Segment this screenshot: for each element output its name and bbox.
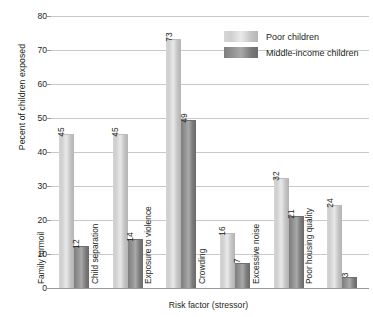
- x-tick-label: Crowding: [197, 249, 207, 284]
- y-tick-mark-40: [47, 152, 51, 153]
- y-tick-mark-80: [47, 16, 51, 17]
- bar-value-label: 12: [71, 240, 81, 249]
- x-tick-label: Excessive noise: [251, 224, 261, 284]
- bar-slot: 45: [113, 16, 128, 288]
- bar[interactable]: 73: [166, 39, 181, 288]
- bar-slot: 14: [128, 16, 143, 288]
- legend-label-middle-income-children: Middle-income children: [266, 48, 359, 58]
- bar[interactable]: 3: [342, 277, 357, 288]
- bar-value-label: 45: [110, 127, 120, 136]
- bar-value-label: 7: [232, 259, 242, 264]
- y-tick-label-50: 50: [7, 113, 47, 123]
- bar-slot: 12: [74, 16, 89, 288]
- y-tick-mark-30: [47, 186, 51, 187]
- x-tick-label: Family turmoil: [36, 232, 46, 284]
- y-tick-mark-0: [47, 288, 51, 289]
- legend-label-poor-children: Poor children: [266, 32, 319, 42]
- x-axis-title: Risk factor (stressor): [44, 300, 373, 310]
- bar[interactable]: 49: [181, 120, 196, 288]
- bar[interactable]: 12: [74, 246, 89, 288]
- bar-group: 7349Exposure to violence: [154, 16, 208, 288]
- legend: Poor children Middle-income children: [224, 31, 359, 63]
- legend-swatch-poor-children: [224, 31, 258, 42]
- bar-slot: 49: [181, 16, 196, 288]
- y-tick-mark-70: [47, 50, 51, 51]
- bar[interactable]: 45: [59, 134, 74, 288]
- y-tick-mark-20: [47, 220, 51, 221]
- x-tick-label: Exposure to violence: [143, 206, 153, 284]
- bar-value-label: 49: [179, 114, 189, 123]
- bar-value-label: 45: [56, 127, 66, 136]
- bar[interactable]: 21: [289, 216, 304, 288]
- bar-value-label: 3: [340, 272, 350, 277]
- y-tick-label-40: 40: [7, 147, 47, 157]
- y-tick-mark-50: [47, 118, 51, 119]
- legend-item-poor-children: Poor children: [224, 31, 359, 42]
- bar-value-label: 24: [325, 199, 335, 208]
- bar-value-label: 16: [217, 226, 227, 235]
- y-tick-label-20: 20: [7, 215, 47, 225]
- bar[interactable]: 7: [235, 263, 250, 288]
- legend-swatch-middle-income-children: [224, 47, 258, 58]
- bar-value-label: 14: [125, 233, 135, 242]
- bar[interactable]: 32: [274, 178, 289, 288]
- legend-item-middle-income-children: Middle-income children: [224, 47, 359, 58]
- bar-value-label: 73: [164, 32, 174, 41]
- bar-value-label: 32: [271, 172, 281, 181]
- y-tick-mark-60: [47, 84, 51, 85]
- y-tick-label-70: 70: [7, 45, 47, 55]
- y-tick-mark-10: [47, 254, 51, 255]
- y-tick-label-30: 30: [7, 181, 47, 191]
- y-tick-label-0: 0: [7, 283, 47, 293]
- bar-value-label: 21: [286, 209, 296, 218]
- y-tick-label-80: 80: [7, 11, 47, 21]
- x-tick-label: Poor housing quality: [304, 208, 314, 284]
- gridline-0: [47, 288, 369, 289]
- bar-slot: 73: [166, 16, 181, 288]
- bar[interactable]: 45: [113, 134, 128, 288]
- x-tick-label: Child separation: [90, 223, 100, 284]
- y-tick-label-60: 60: [7, 79, 47, 89]
- bar[interactable]: 14: [128, 239, 143, 288]
- bar-chart: Pecent of children exposed 4512Family tu…: [0, 0, 373, 317]
